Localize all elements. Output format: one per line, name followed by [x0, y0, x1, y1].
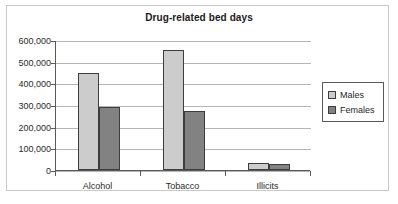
- legend-swatch-females: [328, 106, 336, 114]
- bar-tobacco-females: [184, 111, 205, 170]
- bar-alcohol-males: [78, 73, 99, 170]
- bar-illicits-males: [248, 163, 269, 170]
- x-axis-category-label-illicits: Illicits: [257, 181, 279, 191]
- x-axis-tick-mark: [55, 171, 56, 176]
- legend-item-males: Males: [328, 87, 379, 102]
- chart-figure: Drug-related bed days 0100,000200,000300…: [0, 0, 398, 204]
- x-axis-category-label-tobacco: Tobacco: [166, 181, 200, 191]
- x-axis-category-label-alcohol: Alcohol: [83, 181, 113, 191]
- legend-label: Females: [340, 105, 375, 115]
- bar-alcohol-females: [99, 107, 120, 170]
- legend: MalesFemales: [322, 82, 384, 122]
- x-axis-tick-mark: [310, 171, 311, 176]
- legend-swatch-males: [328, 91, 336, 99]
- gridline: [56, 41, 311, 42]
- y-axis-tick-marks: [0, 41, 56, 172]
- x-axis-tick-mark: [140, 171, 141, 176]
- x-axis-tick-mark: [225, 171, 226, 176]
- chart-title: Drug-related bed days: [0, 12, 398, 23]
- bar-illicits-females: [269, 164, 290, 171]
- gridline: [56, 63, 311, 64]
- bar-tobacco-males: [163, 50, 184, 170]
- plot-area: [55, 41, 310, 171]
- x-axis: AlcoholTobaccoIllicits: [55, 171, 311, 201]
- legend-item-females: Females: [328, 102, 379, 117]
- legend-label: Males: [340, 90, 364, 100]
